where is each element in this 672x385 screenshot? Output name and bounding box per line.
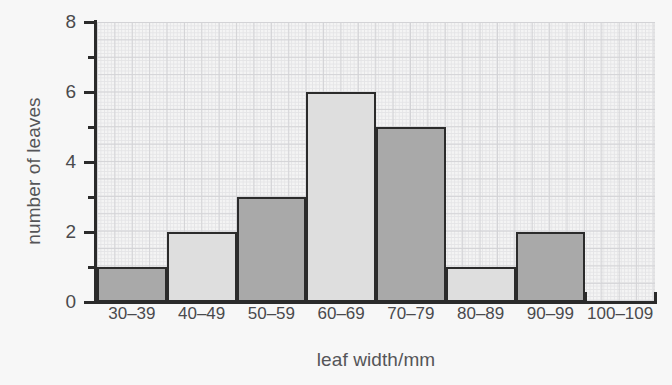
x-tick-6 <box>514 292 517 304</box>
y-tick-minor-1 <box>88 266 97 269</box>
y-tick-minor-7 <box>88 56 97 59</box>
x-tick-0 <box>96 292 99 304</box>
x-tick-7 <box>584 292 587 304</box>
x-tick-label-70-79: 70–79 <box>376 305 446 322</box>
bar-30-39 <box>97 267 167 302</box>
y-tick-major-4 <box>84 161 97 164</box>
bar-60-69 <box>306 92 376 302</box>
x-tick-label-30-39: 30–39 <box>97 305 167 322</box>
x-tick-label-60-69: 60–69 <box>306 305 376 322</box>
x-tick-2 <box>235 292 238 304</box>
y-tick-label-8: 8 <box>36 12 76 31</box>
y-tick-major-6 <box>84 91 97 94</box>
x-tick-label-100-109: 100–109 <box>585 305 655 322</box>
x-tick-5 <box>444 292 447 304</box>
x-tick-label-90-99: 90–99 <box>516 305 586 322</box>
x-tick-label-80-89: 80–89 <box>446 305 516 322</box>
bar-90-99 <box>516 232 586 302</box>
x-tick-3 <box>305 292 308 304</box>
histogram-chart: 02468 30–3940–4950–5960–6970–7980–8990–9… <box>0 0 672 385</box>
x-tick-1 <box>165 292 168 304</box>
bar-40-49 <box>167 232 237 302</box>
bar-50-59 <box>237 197 307 302</box>
x-tick-label-40-49: 40–49 <box>167 305 237 322</box>
bar-70-79 <box>376 127 446 302</box>
y-tick-major-2 <box>84 231 97 234</box>
y-tick-minor-3 <box>88 196 97 199</box>
y-tick-major-8 <box>84 21 97 24</box>
x-tick-4 <box>375 292 378 304</box>
y-axis-title: number of leaves <box>23 51 45 291</box>
x-tick-8 <box>654 292 657 304</box>
y-tick-minor-5 <box>88 126 97 129</box>
y-tick-label-0: 0 <box>36 292 76 311</box>
bar-80-89 <box>446 267 516 302</box>
x-tick-label-50-59: 50–59 <box>237 305 307 322</box>
x-axis-title: leaf width/mm <box>97 349 655 371</box>
plot-area <box>97 22 655 302</box>
